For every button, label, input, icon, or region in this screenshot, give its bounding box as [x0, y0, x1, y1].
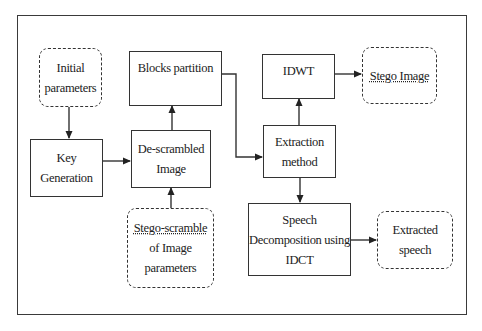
node-label-line: IDWT — [283, 61, 314, 81]
node-label-line: speech — [399, 240, 431, 260]
node-extraction-method: Extraction method — [263, 125, 336, 178]
node-label-line: Key — [57, 148, 77, 168]
node-label-line: Extracted — [392, 220, 437, 240]
node-label-line: Blocks partition — [138, 58, 213, 78]
node-initial-parameters: Initial parameters — [39, 48, 102, 107]
node-stego-image: Stego Image — [362, 47, 437, 104]
node-label-line: Generation — [40, 168, 93, 188]
node-blocks-partition: Blocks partition — [129, 51, 222, 106]
node-label-line: method — [282, 152, 318, 172]
node-extracted-speech: Extracted speech — [377, 211, 453, 269]
node-label-line: parameters — [145, 258, 197, 278]
node-label-line: IDCT — [286, 250, 314, 270]
node-label-line: Stego Image — [370, 66, 430, 86]
node-label-line: parameters — [45, 78, 97, 98]
node-label-line: Stego-scramble — [134, 218, 208, 238]
node-idwt: IDWT — [262, 54, 335, 99]
node-label-line: Extraction — [275, 132, 324, 152]
node-label-line: Speech — [282, 210, 316, 230]
node-speech-decomposition: Speech Decomposition using IDCT — [248, 203, 351, 276]
node-label-line: Image — [156, 159, 186, 179]
node-label-line: Decomposition using — [249, 230, 350, 250]
node-label-line: of Image — [149, 238, 191, 258]
node-stego-scramble: Stego-scramble of Image parameters — [127, 208, 214, 288]
node-descrambled-image: De-scrambled Image — [131, 130, 211, 188]
node-label-line: De-scrambled — [138, 139, 205, 159]
node-label-line: Initial — [57, 58, 85, 78]
node-key-generation: Key Generation — [30, 139, 103, 197]
